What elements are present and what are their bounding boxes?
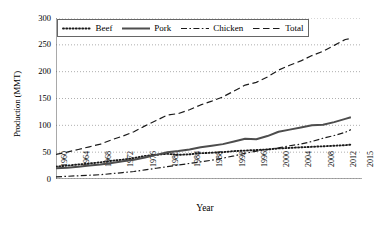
legend-key-icon	[121, 24, 151, 33]
legend-item-total: Total	[252, 23, 303, 33]
legend-swatch-chicken	[180, 24, 210, 33]
x-tick-label: 2015	[366, 151, 375, 181]
series-line-beef	[56, 145, 351, 167]
series-line-total	[56, 38, 351, 154]
legend-label: Chicken	[213, 23, 243, 33]
y-tick-label: 50	[25, 148, 51, 156]
plot-area	[56, 18, 362, 179]
legend-swatch-beef	[62, 24, 92, 33]
legend-key-icon	[252, 24, 282, 33]
y-tick-label: 100	[25, 121, 51, 129]
y-tick-label: 300	[25, 14, 51, 22]
plot-svg	[56, 18, 362, 179]
legend-item-chicken: Chicken	[180, 23, 243, 33]
legend-label: Pork	[154, 23, 171, 33]
x-axis-title: Year	[45, 203, 365, 213]
chart-figure: Production (MMT) Year 050100150200250300…	[0, 0, 377, 225]
y-tick-label: 150	[25, 94, 51, 102]
y-tick-label: 200	[25, 67, 51, 75]
y-axis-title: Production (MMT)	[12, 14, 26, 194]
legend-label: Total	[285, 23, 303, 33]
legend-swatch-pork	[121, 24, 151, 33]
y-tick-label: 250	[25, 40, 51, 48]
legend-label: Beef	[95, 23, 112, 33]
y-tick-label: 0	[25, 175, 51, 183]
chart-legend: BeefPorkChickenTotal	[57, 19, 309, 37]
legend-item-beef: Beef	[62, 23, 112, 33]
legend-key-icon	[180, 24, 210, 33]
legend-key-icon	[62, 24, 92, 33]
legend-item-pork: Pork	[121, 23, 171, 33]
legend-swatch-total	[252, 24, 282, 33]
